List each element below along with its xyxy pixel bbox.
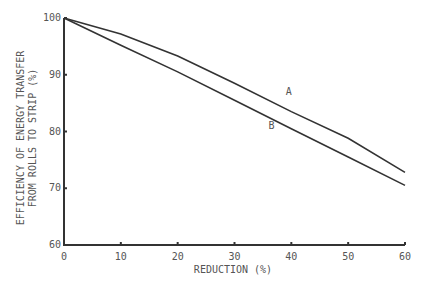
series-label-a: A [286,86,292,97]
series-line-b [64,18,405,185]
series-line-a [64,18,405,172]
y-tick-label: 80 [49,126,61,137]
y-tick-label: 70 [49,182,61,193]
y-axis-label-line1: EFFICIENCY OF ENERGY TRANSFER [15,50,26,226]
x-tick-label: 60 [399,251,411,262]
x-tick-label: 50 [342,251,354,262]
y-axis-label-line2: FROM ROLLS TO STRIP (%) [27,69,38,207]
x-tick-label: 40 [285,251,297,262]
series-label-b: B [269,120,275,131]
x-tick-label: 20 [172,251,184,262]
y-tick-label: 60 [49,239,61,250]
x-tick-label: 30 [228,251,240,262]
x-axis-label: REDUCTION (%) [194,264,272,275]
axes [64,18,405,245]
plot-area: AB [64,18,405,245]
chart: AB 0102030405060 60708090100 REDUCTION (… [0,0,424,290]
x-tick-label: 10 [115,251,127,262]
y-tick-label: 100 [43,12,61,23]
x-tick-label: 0 [61,251,67,262]
y-tick-label: 90 [49,69,61,80]
